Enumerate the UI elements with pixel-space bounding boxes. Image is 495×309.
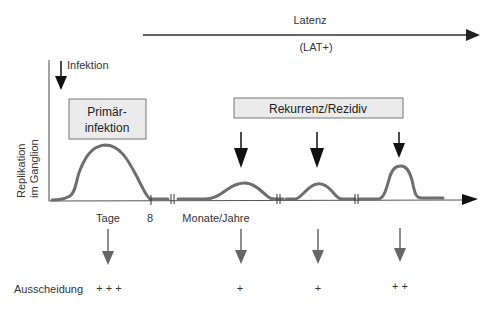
latency-arrow	[143, 29, 480, 41]
infection-label: Infektion	[67, 59, 109, 71]
primary-infection-label-line1: Primär-	[87, 105, 126, 119]
shedding-arrow-icon-1	[102, 229, 114, 265]
herpes-latency-diagram: Latenz (LAT+) Replikation im Ganglion In…	[0, 0, 495, 309]
recurrence-arrow-icon-2	[310, 132, 324, 168]
shedding-level-recurrence-3: + +	[392, 280, 408, 292]
y-axis-label-line1: Replikation	[15, 144, 27, 198]
latency-sublabel: (LAT+)	[299, 41, 332, 53]
tick-label-days: Tage	[96, 212, 120, 224]
shedding-label: Ausscheidung	[14, 283, 83, 295]
shedding-arrow-icon-3	[312, 229, 324, 264]
primary-infection-label-line2: infektion	[85, 121, 130, 135]
tick-label-months: Monate/Jahre	[182, 212, 249, 224]
shedding-arrow-icon-4	[394, 228, 406, 262]
shedding-arrow-icon-2	[235, 229, 247, 264]
infection-arrow-icon	[55, 61, 67, 90]
recurrence-arrow-icon-1	[234, 132, 248, 168]
shedding-level-recurrence-2: +	[315, 282, 321, 294]
axis-break-1	[171, 194, 174, 204]
x-axis	[49, 194, 478, 205]
tick-label-8: 8	[147, 212, 153, 224]
replication-curve	[52, 145, 443, 200]
shedding-level-recurrence-1: +	[237, 282, 243, 294]
latency-label: Latenz	[293, 14, 326, 26]
y-axis-label-line2: im Ganglion	[28, 139, 40, 198]
shedding-level-primary: + + +	[96, 282, 121, 294]
recurrence-arrow-icon-3	[393, 132, 405, 158]
recurrence-label: Rekurrenz/Rezidiv	[269, 102, 367, 116]
